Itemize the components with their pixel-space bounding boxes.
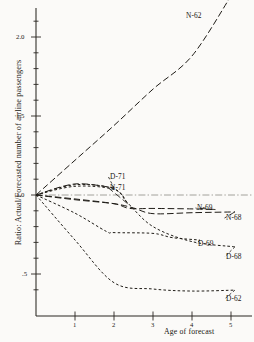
x-tick-label: 3 <box>151 321 154 328</box>
series-label-N-68: N-68 <box>226 213 242 222</box>
series-label-N-69: N-69 <box>197 203 213 212</box>
series-label-N-71: N-71 <box>110 183 126 192</box>
series-label-D-68: D-68 <box>226 252 242 261</box>
x-tick-label: 4 <box>190 321 193 328</box>
chart-axes <box>36 8 252 316</box>
y-tick-label: 1.0 <box>16 191 25 198</box>
chart-figure: Ratio: Actual/Forecasted number of airli… <box>0 0 254 342</box>
x-tick-label: 5 <box>229 321 232 328</box>
y-tick-label: 2.0 <box>16 33 25 40</box>
y-tick-label: 1.5 <box>16 112 25 119</box>
series-label-D-71: D-71 <box>110 172 126 181</box>
series-line-N-62 <box>36 0 231 195</box>
series-label-D-69: D-69 <box>198 239 214 248</box>
y-tick-label: .5 <box>22 270 27 277</box>
series-label-N-62: N-62 <box>186 11 202 20</box>
series-line-D-69 <box>36 195 200 240</box>
series-label-D-62: D-62 <box>226 294 242 303</box>
y-axis-title: Ratio: Actual/Forecasted number of airli… <box>14 53 23 253</box>
x-tick-label: 1 <box>73 321 76 328</box>
x-tick-label: 2 <box>112 321 115 328</box>
chart-plot-area <box>0 0 254 342</box>
x-axis-title: Age of forecast <box>164 327 214 336</box>
